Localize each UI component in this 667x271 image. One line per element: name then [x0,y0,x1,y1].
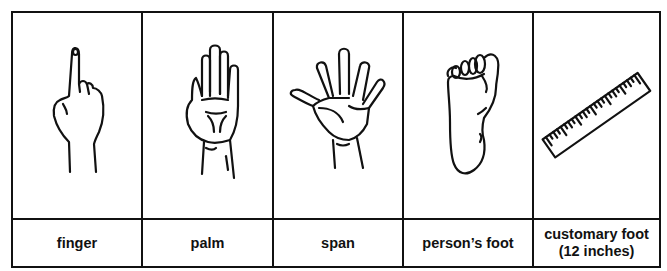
label-text: finger [57,235,97,252]
label-customary-foot: customary foot (12 inches) [534,220,659,266]
label-persons-foot: person’s foot [404,220,534,266]
span-hand-icon [283,36,393,196]
label-palm: palm [143,220,274,266]
finger-illustration-cell [13,13,143,220]
palm-icon [158,36,258,196]
label-finger: finger [13,220,143,266]
customary-foot-illustration-cell [534,13,659,220]
finger-icon [27,36,127,196]
palm-illustration-cell [143,13,274,220]
ruler-icon [537,36,657,196]
label-span: span [274,220,404,266]
label-text: customary foot (12 inches) [544,226,649,260]
label-text: span [321,235,355,252]
span-illustration-cell [274,13,404,220]
foot-icon [418,36,518,196]
label-text: palm [191,235,225,252]
persons-foot-illustration-cell [404,13,534,220]
label-text: person’s foot [422,235,513,252]
measurement-units-table: finger palm span person’s foot customary… [11,11,661,268]
